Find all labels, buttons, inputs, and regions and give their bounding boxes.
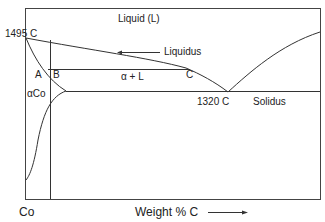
eutectic-temp-label: 1320 C — [197, 97, 229, 107]
point-a-label: A — [35, 70, 42, 80]
alpha-solidus-curve — [26, 38, 66, 91]
liquidus-label: Liquidus — [164, 47, 201, 57]
phase-diagram-plot — [0, 0, 325, 222]
origin-co-label: Co — [19, 206, 34, 218]
liquid-region-label: Liquid (L) — [118, 14, 160, 24]
alpha-liquid-region-label: α + L — [121, 72, 144, 82]
solvus-curve — [26, 91, 66, 180]
solidus-label: Solidus — [253, 97, 286, 107]
x-axis-arrowhead — [242, 211, 248, 215]
alpha-co-region-label: αCo — [27, 89, 46, 99]
melting-point-label: 1495 C — [5, 29, 37, 39]
point-c-label: C — [186, 70, 193, 80]
x-axis-label: Weight % C — [135, 206, 198, 218]
point-b-label: B — [53, 70, 60, 80]
liquidus-curve-right — [228, 32, 320, 92]
